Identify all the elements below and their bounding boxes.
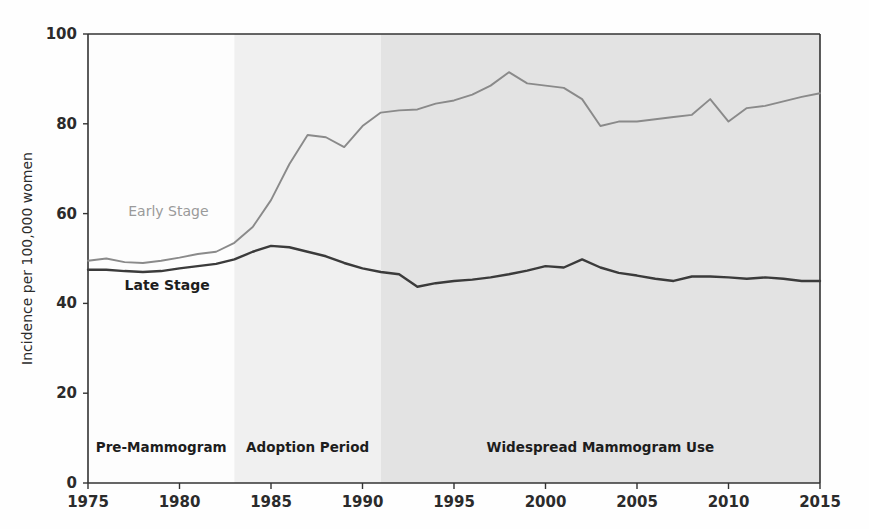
- y-axis-title-label: Incidence per 100,000 women: [19, 152, 35, 365]
- x-tick-label-8: 2015: [799, 493, 841, 511]
- x-tick-label-3: 1990: [342, 493, 384, 511]
- band-label-adoption-period: Adoption Period: [246, 439, 369, 455]
- y-tick-label-1: 20: [56, 384, 77, 402]
- y-tick-label-0: 0: [67, 474, 77, 492]
- x-axis-ticks: 197519801985199019952000200520102015: [67, 483, 841, 511]
- x-tick-label-2: 1985: [250, 493, 292, 511]
- y-tick-label-5: 100: [46, 25, 77, 43]
- y-axis-title: Incidence per 100,000 women: [19, 152, 35, 365]
- series-annotation-late-stage: Late Stage: [125, 277, 210, 293]
- band-label-widespread-mammogram-use: Widespread Mammogram Use: [487, 439, 715, 455]
- chart-page: 020406080100 197519801985199019952000200…: [0, 0, 869, 529]
- x-tick-label-7: 2010: [708, 493, 750, 511]
- series-annotation-early-stage: Early Stage: [128, 203, 208, 219]
- x-tick-label-0: 1975: [67, 493, 109, 511]
- line-chart-svg: 020406080100 197519801985199019952000200…: [0, 0, 869, 529]
- band-label-pre-mammogram: Pre-Mammogram: [96, 439, 227, 455]
- chart-figure: 020406080100 197519801985199019952000200…: [0, 0, 869, 529]
- x-tick-label-1: 1980: [159, 493, 201, 511]
- y-tick-label-2: 40: [56, 294, 77, 312]
- x-tick-label-6: 2005: [616, 493, 658, 511]
- band-rect-1: [234, 34, 380, 483]
- y-axis-ticks: 020406080100: [46, 25, 88, 492]
- y-tick-label-3: 60: [56, 205, 77, 223]
- x-tick-label-4: 1995: [433, 493, 475, 511]
- x-tick-label-5: 2000: [525, 493, 567, 511]
- y-tick-label-4: 80: [56, 115, 77, 133]
